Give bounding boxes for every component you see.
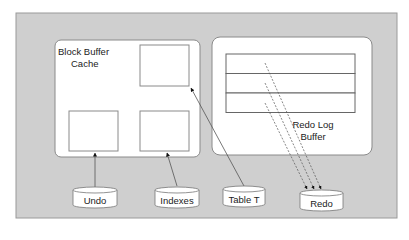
datafile-redo: Redo bbox=[300, 190, 343, 211]
redo-log-buffer: Redo Log Buffer bbox=[212, 37, 372, 155]
redo-log-row-3 bbox=[226, 93, 355, 113]
datafile-indexes-label: Indexes bbox=[160, 195, 194, 206]
block-buffer-cache: Block Buffer Cache bbox=[55, 40, 200, 157]
redo-log-buffer-label-2: Buffer bbox=[300, 131, 325, 142]
datafile-redo-label: Redo bbox=[310, 198, 333, 209]
block-buffer-cache-label-1: Block Buffer bbox=[58, 46, 109, 57]
cache-block-bottom-left bbox=[69, 111, 118, 151]
datafile-undo: Undo bbox=[73, 187, 117, 208]
datafile-table-t: Table T bbox=[223, 186, 265, 207]
block-buffer-cache-label-2: Cache bbox=[71, 58, 98, 69]
redo-log-row-1 bbox=[226, 54, 355, 74]
redo-log-buffer-label-1: Redo Log bbox=[292, 119, 333, 130]
datafile-undo-label: Undo bbox=[84, 195, 107, 206]
cache-block-top-right bbox=[140, 45, 189, 86]
cache-block-bottom-right bbox=[140, 111, 189, 151]
oracle-memory-diagram: Block Buffer Cache Redo Log Buffer Undo … bbox=[0, 0, 409, 240]
redo-log-row-2 bbox=[226, 74, 355, 94]
datafile-indexes: Indexes bbox=[155, 187, 199, 208]
datafile-table-t-label: Table T bbox=[229, 194, 260, 205]
